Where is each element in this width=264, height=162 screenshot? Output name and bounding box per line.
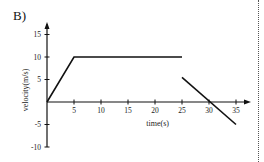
y-axis-title: velocity(m/s) — [21, 68, 30, 111]
y-tick-label: 10 — [34, 53, 42, 62]
x-tick-label: 10 — [97, 106, 105, 115]
x-axis-arrow-icon — [244, 100, 251, 105]
x-tick-label: 15 — [124, 106, 132, 115]
y-axis-arrow-icon — [45, 22, 50, 29]
x-tick-label: 25 — [178, 106, 186, 115]
x-tick-label: 30 — [205, 106, 213, 115]
series-line-segment-2 — [182, 77, 236, 124]
y-tick-label: 15 — [34, 30, 42, 39]
x-tick-label: 20 — [151, 106, 159, 115]
x-tick-label: 35 — [232, 106, 240, 115]
y-tick-label: -10 — [31, 143, 41, 152]
x-tick-label: 5 — [72, 106, 76, 115]
velocity-time-chart: 510152025303515105-5-10time(s)velocity(m… — [0, 0, 264, 162]
y-tick-label: 5 — [37, 75, 41, 84]
y-tick-label: -5 — [35, 120, 41, 129]
series-line-segment-1 — [47, 57, 182, 102]
x-axis-title: time(s) — [146, 119, 169, 128]
